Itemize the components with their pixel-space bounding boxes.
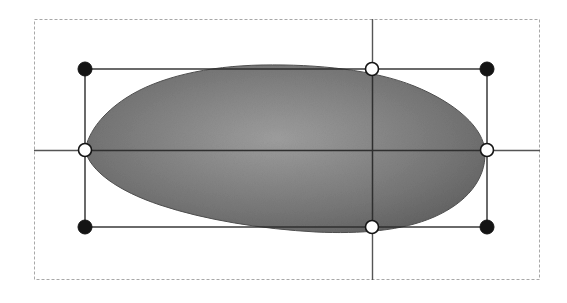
handle-middle-right[interactable] bbox=[481, 144, 494, 157]
handle-bottom-center[interactable] bbox=[366, 221, 379, 234]
handle-bottom-left[interactable] bbox=[78, 220, 92, 234]
handle-top-left[interactable] bbox=[78, 62, 92, 76]
vector-stage[interactable] bbox=[0, 0, 567, 303]
handle-middle-left[interactable] bbox=[79, 144, 92, 157]
handle-top-center[interactable] bbox=[366, 63, 379, 76]
handle-top-right[interactable] bbox=[480, 62, 494, 76]
handle-bottom-right[interactable] bbox=[480, 220, 494, 234]
vector-editor-canvas[interactable]: Shape Selection Canvas bbox=[0, 0, 567, 303]
